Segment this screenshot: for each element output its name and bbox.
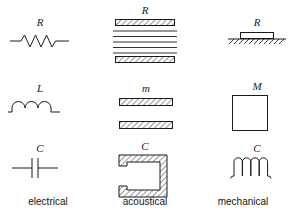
cell-mechanical-inertance: M — [229, 80, 285, 132]
symbol-label-mechanical-resistance: R — [254, 16, 261, 28]
capacitor-plates-icon — [8, 156, 72, 180]
inductor-coil-icon — [8, 96, 72, 116]
cell-acoustical-inertance: m — [118, 82, 174, 132]
acoustic-resistance-screen-icon — [111, 18, 179, 64]
cell-acoustical-compliance: C — [115, 140, 175, 198]
cell-mechanical-compliance: C — [229, 142, 285, 182]
cell-acoustical-resistance: R — [111, 4, 179, 64]
symbol-label-acoustical-resistance: R — [142, 4, 149, 16]
cell-electrical-inertance: L — [8, 82, 72, 116]
column-label-mechanical: mechanical — [195, 196, 291, 208]
symbol-label-mechanical-inertance: M — [252, 80, 261, 92]
symbol-label-electrical-compliance: C — [36, 142, 43, 154]
mechanical-spring-coil-icon — [229, 156, 285, 182]
symbol-label-acoustical-compliance: C — [141, 140, 148, 152]
cell-electrical-compliance: C — [8, 142, 72, 180]
resistor-zigzag-icon — [8, 30, 72, 50]
analogy-figure: R R — [0, 0, 291, 218]
symbol-label-electrical-inertance: L — [37, 82, 43, 94]
acoustic-cavity-icon — [115, 154, 175, 198]
symbol-label-mechanical-compliance: C — [253, 142, 260, 154]
symbol-label-electrical-resistance: R — [37, 16, 44, 28]
symbol-label-acoustical-inertance: m — [142, 82, 150, 94]
mechanical-mass-block-icon — [229, 94, 285, 132]
mechanical-damper-on-ground-icon — [226, 30, 288, 50]
acoustic-mass-plates-icon — [118, 96, 174, 132]
column-label-acoustical: acoustical — [97, 196, 193, 208]
cell-electrical-resistance: R — [8, 16, 72, 50]
cell-mechanical-resistance: R — [226, 16, 288, 50]
column-label-electrical: electrical — [0, 196, 96, 208]
